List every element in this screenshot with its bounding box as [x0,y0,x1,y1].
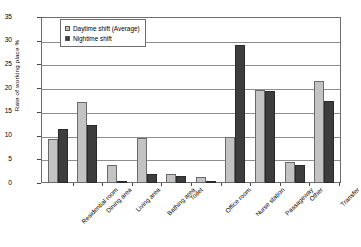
legend-swatch-nightime-icon [65,36,70,41]
bar-daytime[interactable] [225,137,235,183]
legend: Daytime shift (Average) Nightime shift [60,19,146,47]
x-tick-label: Nurse station [254,186,286,218]
bar-daytime[interactable] [285,162,295,183]
bar-nightime[interactable] [58,129,68,183]
bar-daytime[interactable] [166,174,176,183]
bar-nightime[interactable] [206,181,216,183]
x-tick-label: Passageway [284,186,315,217]
y-tick-label: 10 [0,132,12,139]
bar-daytime[interactable] [196,177,206,183]
y-tick-label: 30 [0,37,12,44]
legend-item-daytime: Daytime shift (Average) [65,23,140,33]
x-tick-label: Bathing area [165,186,196,217]
bar-daytime[interactable] [77,102,87,183]
bar-nightime[interactable] [87,125,97,183]
bar-nightime[interactable] [117,181,127,183]
y-tick-mark [37,183,41,184]
bar-nightime[interactable] [235,45,245,183]
legend-label-nightime: Nightime shift [73,35,112,42]
y-tick-label: 25 [0,61,12,68]
legend-swatch-daytime-icon [65,26,70,31]
bar-nightime[interactable] [295,165,305,183]
bar-nightime[interactable] [176,176,186,183]
bar-daytime[interactable] [48,139,58,183]
x-tick-label: Office room [223,186,251,214]
bar-nightime[interactable] [324,101,334,183]
y-tick-label: 0 [0,180,12,187]
y-tick-label: 20 [0,85,12,92]
y-axis-title: Rate of working place % [13,16,20,136]
bar-nightime[interactable] [265,91,275,183]
y-tick-label: 35 [0,14,12,21]
bar-nightime[interactable] [147,174,157,183]
legend-label-daytime: Daytime shift (Average) [73,25,140,32]
gridline [42,89,340,90]
x-tick-label: Living area [134,186,161,213]
x-tick-label: Transfer [339,186,361,208]
y-tick-label: 15 [0,108,12,115]
bar-daytime[interactable] [255,90,265,183]
bar-daytime[interactable] [137,138,147,183]
y-tick-label: 5 [0,156,12,163]
bar-daytime[interactable] [107,165,117,183]
legend-item-nightime: Nightime shift [65,33,140,43]
x-axis-labels: Residential roomDining areaLiving areaBa… [41,186,341,246]
bar-daytime[interactable] [314,81,324,183]
gridline [42,65,340,66]
